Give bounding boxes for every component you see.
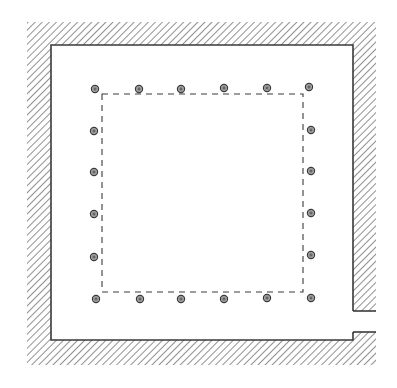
door-opening — [353, 311, 376, 332]
column-right-1 — [307, 126, 314, 133]
column-bottom-6 — [307, 294, 314, 301]
column-right-2 — [307, 167, 314, 174]
column-top-5 — [263, 84, 270, 91]
column-top-2 — [135, 85, 142, 92]
column-left-1 — [90, 127, 97, 134]
column-bottom-3 — [177, 295, 184, 302]
column-left-2 — [90, 168, 97, 175]
wall-hatch — [27, 22, 376, 365]
column-left-4 — [90, 253, 97, 260]
column-grid — [90, 83, 314, 302]
column-bottom-1 — [92, 295, 99, 302]
column-bottom-2 — [136, 295, 143, 302]
dashed-outline — [102, 94, 303, 292]
column-right-4 — [307, 251, 314, 258]
column-left-3 — [90, 210, 97, 217]
dashed-rectangle — [102, 94, 303, 292]
column-right-3 — [307, 209, 314, 216]
column-top-3 — [177, 85, 184, 92]
hatched-walls — [27, 22, 376, 365]
column-top-4 — [220, 84, 227, 91]
column-bottom-4 — [220, 295, 227, 302]
column-bottom-5 — [263, 294, 270, 301]
column-top-1 — [91, 85, 98, 92]
floor-plan-diagram — [0, 0, 397, 388]
column-top-6 — [305, 83, 312, 90]
